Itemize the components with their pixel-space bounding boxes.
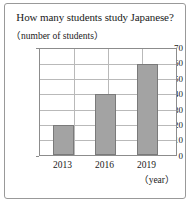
category-divider-1	[74, 49, 75, 155]
plot-area	[39, 48, 177, 156]
chart-title: How many students study Japanese?	[5, 11, 185, 24]
bar-2016	[95, 94, 116, 155]
x-axis-unit-label: （year）	[139, 175, 175, 186]
plot-wrapper: 70 60 50 40 30 20 10 0 2013	[9, 44, 183, 196]
x-tick-label-2013: 2013	[40, 160, 86, 171]
y-axis-unit-label: （number of students）	[11, 31, 104, 42]
y-tick-mark-0	[36, 156, 39, 157]
bar-2013	[53, 125, 74, 155]
chart-card: How many students study Japanese? （numbe…	[4, 3, 186, 199]
bar-2019	[137, 64, 158, 155]
x-tick-label-2016: 2016	[82, 160, 128, 171]
x-tick-label-2019: 2019	[124, 160, 170, 171]
